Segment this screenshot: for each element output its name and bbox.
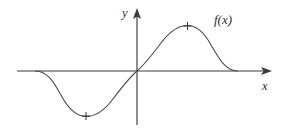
minimum-tick-marker <box>82 112 90 120</box>
function-graph-figure: y x f(x) <box>0 0 286 131</box>
x-axis-label: x <box>261 79 268 93</box>
function-label: f(x) <box>214 12 232 27</box>
maximum-tick-marker <box>184 22 192 30</box>
y-axis-label: y <box>120 6 128 20</box>
graph-canvas: y x f(x) <box>0 0 286 131</box>
